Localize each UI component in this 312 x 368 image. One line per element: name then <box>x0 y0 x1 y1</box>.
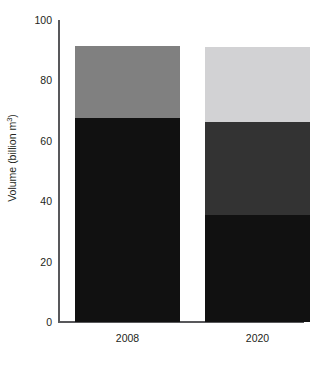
x-tick-label-2008: 2008 <box>75 332 180 344</box>
bar-2020-segment-top[interactable] <box>205 47 310 122</box>
y-tick-label-20: 20 <box>6 257 52 268</box>
bar-2020[interactable] <box>205 47 310 322</box>
x-tick-label-2020: 2020 <box>205 332 310 344</box>
bar-2020-segment-bottom[interactable] <box>205 215 310 322</box>
bar-2008[interactable] <box>75 46 180 322</box>
stacked-bar-chart: Volume (billion m3) 100 80 60 40 20 0 20… <box>0 0 312 368</box>
y-tick-label-100: 100 <box>6 15 52 26</box>
y-tick-label-0: 0 <box>6 317 52 328</box>
bar-2008-segment-top[interactable] <box>75 46 180 118</box>
bar-2020-segment-middle[interactable] <box>205 122 310 215</box>
y-tick-label-60: 60 <box>6 136 52 147</box>
plot-area <box>58 20 304 322</box>
bar-2008-segment-bottom[interactable] <box>75 118 180 322</box>
y-tick-label-column: 100 80 60 40 20 0 <box>0 0 52 330</box>
y-tick-label-80: 80 <box>6 75 52 86</box>
y-tick-label-40: 40 <box>6 196 52 207</box>
